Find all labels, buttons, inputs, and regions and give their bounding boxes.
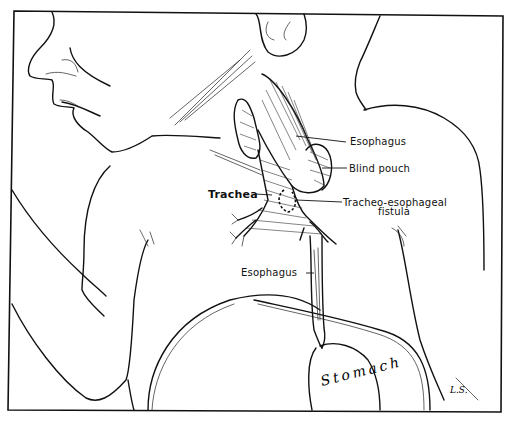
- label-stomach: Stomach: [319, 353, 404, 389]
- infant-ear: [256, 14, 306, 56]
- infant-face: [28, 12, 262, 175]
- illustration-canvas: Esophagus Blind pouch Trachea Tracheo-es…: [0, 0, 508, 421]
- label-esophagus-lower: Esophagus: [241, 267, 297, 278]
- medical-illustration: Esophagus Blind pouch Trachea Tracheo-es…: [0, 0, 508, 421]
- label-fistula-line2: fistula: [378, 206, 410, 217]
- shoulder-right: [355, 16, 484, 400]
- leader-lines: [256, 136, 347, 273]
- label-esophagus-upper: Esophagus: [350, 136, 406, 147]
- trachea: [244, 150, 336, 244]
- larynx-upper-esophagus: [234, 74, 324, 193]
- label-blind-pouch: Blind pouch: [349, 163, 410, 174]
- lower-esophagus: [310, 236, 325, 348]
- abdomen: [148, 295, 430, 410]
- illustration-frame: [8, 11, 503, 412]
- blind-pouch: [306, 144, 332, 190]
- body-left: [12, 166, 154, 410]
- label-trachea: Trachea: [208, 188, 258, 201]
